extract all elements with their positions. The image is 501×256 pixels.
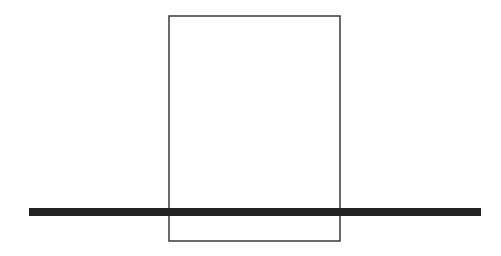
horizontal-bar [29,208,481,216]
rectangle-outline [169,16,340,241]
diagram-canvas [0,0,501,256]
